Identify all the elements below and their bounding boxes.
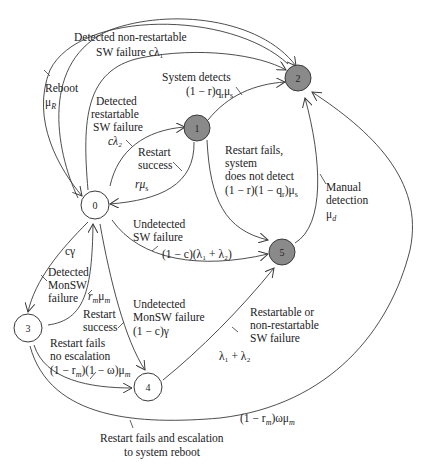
node-1-label: 1 xyxy=(195,123,200,134)
node-0-label: 0 xyxy=(93,200,98,211)
node-4-label: 4 xyxy=(146,382,151,393)
label-undetected-mon-rate: (1 − c)γ xyxy=(133,325,169,338)
node-5: 5 xyxy=(269,239,295,265)
label-restart-success-2: success xyxy=(138,159,173,171)
node-2-label: 2 xyxy=(296,73,301,84)
label-restart-success-1: Restart xyxy=(138,146,171,158)
label-monsw-rate: cγ xyxy=(65,245,75,258)
label-no-escalation-rate: (1 − rm)(1 − ω)μm xyxy=(50,364,131,379)
label-undetected-sw-1: Undetected xyxy=(133,218,186,230)
label-not-detect-rate: (1 − r)(1 − qr)μs xyxy=(225,184,298,199)
label-restartable-or-3: SW failure xyxy=(250,332,300,344)
label-reboot-rate: μR xyxy=(45,96,56,111)
label-escalation-2: to system reboot xyxy=(124,446,201,459)
label-not-detect-2: system xyxy=(225,157,257,170)
node-3-label: 3 xyxy=(26,323,31,334)
edge-5-to-2-manual xyxy=(295,98,318,243)
label-restartable-rate: cλ₂ xyxy=(108,135,122,147)
label-escalation-rate: (1 − rm)ωμm xyxy=(240,412,295,427)
label-mon-restart-1: Restart xyxy=(83,308,116,320)
label-undetected-mon-2: MonSW failure xyxy=(133,311,205,323)
label-manual-rate: μd xyxy=(326,208,337,223)
label-manual-2: detection xyxy=(326,194,368,206)
label-not-detect-1: Restart fails, xyxy=(225,144,283,157)
node-5-label: 5 xyxy=(280,247,285,258)
label-no-escalation-1: Restart fails xyxy=(50,337,106,349)
label-restart-success-rate: rμs xyxy=(135,178,148,193)
label-system-detects-rate: (1 − r)qrμs xyxy=(186,85,233,100)
node-3: 3 xyxy=(14,314,42,342)
label-undetected-sw-2: SW failure xyxy=(133,231,183,243)
label-monsw-2: MonSW xyxy=(48,279,87,291)
label-restartable-or-1: Restartable or xyxy=(250,306,314,318)
label-restartable-or-rate: λ₁ + λ₂ xyxy=(219,350,250,362)
label-restartable-2: restartable xyxy=(91,108,139,120)
label-system-detects: System detects xyxy=(162,71,231,84)
label-escalation-1: Restart fails and escalation xyxy=(100,432,224,444)
node-4: 4 xyxy=(134,373,162,401)
label-monsw-1: Detected xyxy=(48,266,89,278)
label-manual-1: Manual xyxy=(326,181,361,193)
label-no-escalation-2: no escalation xyxy=(50,350,111,362)
label-nonrestartable-2: SW failure cλ₁ xyxy=(96,46,164,58)
label-undetected-mon-1: Undetected xyxy=(133,298,186,310)
label-undetected-sw-rate: (1 − c)(λ₁ + λ₂) xyxy=(162,248,232,261)
state-diagram: 0 1 2 3 4 5 Detected non-restartable SW … xyxy=(0,0,421,468)
label-restartable-or-2: non-restartable xyxy=(250,319,319,331)
label-restartable-1: Detected xyxy=(96,95,137,107)
label-not-detect-3: does not detect xyxy=(225,170,295,182)
label-mon-restart-rate: rmμm xyxy=(88,290,110,305)
node-2: 2 xyxy=(285,65,311,91)
label-monsw-3: failure xyxy=(48,292,78,304)
node-0: 0 xyxy=(81,191,109,219)
label-restartable-3: SW failure xyxy=(93,121,143,133)
label-nonrestartable-1: Detected non-restartable xyxy=(74,31,187,43)
label-reboot: Reboot xyxy=(45,82,79,94)
node-1: 1 xyxy=(184,115,210,141)
label-mon-restart-2: success xyxy=(83,321,118,333)
